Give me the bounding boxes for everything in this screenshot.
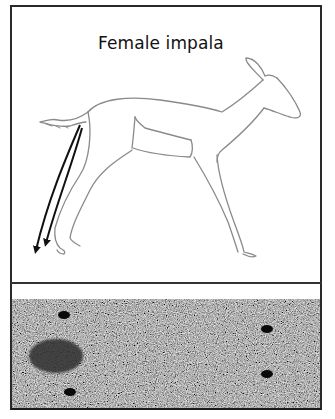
- impala-outline: [40, 58, 300, 257]
- pellet-3: [261, 325, 273, 333]
- arrow-2: [46, 128, 82, 243]
- arrows: [36, 125, 82, 250]
- pellet-2: [64, 388, 76, 396]
- arrow-1: [36, 125, 80, 250]
- ground-substrate: [10, 299, 322, 410]
- impala-figure: Female impala: [0, 0, 335, 419]
- panel-divider: [10, 282, 322, 284]
- pellet-4: [261, 370, 273, 378]
- pellet-1: [58, 311, 70, 319]
- dark-blotch: [29, 339, 83, 373]
- ground-texture: [12, 299, 322, 410]
